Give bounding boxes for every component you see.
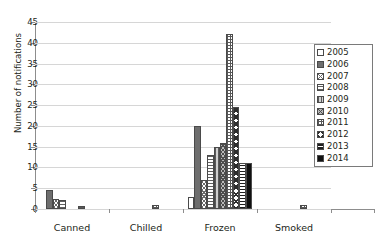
legend-item-2012[interactable]: 2012: [317, 129, 370, 141]
x-tick-mark: [374, 209, 375, 213]
x-tick-label-canned: Canned: [54, 222, 90, 233]
legend-swatch-icon: [317, 119, 324, 126]
legend-item-2008[interactable]: 2008: [317, 82, 370, 94]
legend-label: 2010: [327, 107, 349, 116]
legend-label: 2008: [327, 83, 349, 92]
x-tick-mark: [109, 209, 110, 213]
legend-label: 2007: [327, 72, 349, 81]
x-tick-label-chilled: Chilled: [130, 222, 162, 233]
legend-swatch-icon: [317, 108, 324, 115]
legend-item-2009[interactable]: 2009: [317, 94, 370, 106]
legend-item-2010[interactable]: 2010: [317, 105, 370, 117]
legend-label: 2006: [327, 60, 349, 69]
legend-item-2006[interactable]: 2006: [317, 59, 370, 71]
x-tick-mark: [35, 209, 36, 213]
bar-frozen-2014: [246, 163, 252, 209]
legend-item-2011[interactable]: 2011: [317, 117, 370, 129]
legend-item-2005[interactable]: 2005: [317, 47, 370, 59]
x-tick-mark: [257, 209, 258, 213]
legend-swatch-icon: [317, 61, 324, 68]
legend-swatch-icon: [317, 84, 324, 91]
legend-label: 2014: [327, 154, 349, 163]
legend-swatch-icon: [317, 49, 324, 56]
x-tick-label-smoked: Smoked: [275, 222, 313, 233]
legend-label: 2009: [327, 95, 349, 104]
legend-item-2007[interactable]: 2007: [317, 70, 370, 82]
bar-canned-2011: [78, 206, 84, 209]
legend-label: 2013: [327, 142, 349, 151]
legend: 2005200620072008200920102011201220132014: [314, 44, 373, 167]
legend-swatch-icon: [317, 96, 324, 103]
legend-label: 2011: [327, 118, 349, 127]
legend-swatch-icon: [317, 73, 324, 80]
bar-smoked-2011: [300, 205, 306, 209]
legend-item-2014[interactable]: 2014: [317, 152, 370, 164]
bar-chart: Number of notifications 0510152025303540…: [0, 0, 377, 247]
bar-canned-2008: [59, 200, 65, 209]
x-tick-mark: [331, 209, 332, 213]
legend-label: 2005: [327, 48, 349, 57]
x-tick-mark: [183, 209, 184, 213]
legend-swatch-icon: [317, 155, 324, 162]
legend-item-2013[interactable]: 2013: [317, 141, 370, 153]
plot-area: [35, 22, 331, 209]
legend-swatch-icon: [317, 131, 324, 138]
x-tick-label-frozen: Frozen: [204, 222, 235, 233]
legend-swatch-icon: [317, 143, 324, 150]
legend-label: 2012: [327, 130, 349, 139]
bar-chilled-2011: [152, 205, 158, 209]
